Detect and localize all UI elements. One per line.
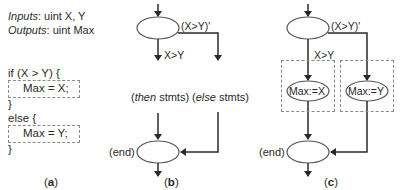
- outputs-declaration: Outputs: uint Max: [8, 24, 94, 36]
- true-branch-label: X>Y: [314, 49, 334, 61]
- caption-b: (b): [164, 176, 179, 188]
- else-stmts-placeholder: (else stmts): [192, 91, 249, 103]
- false-branch-label: (X>Y)': [181, 20, 210, 32]
- then-close-brace: }: [8, 98, 12, 111]
- decision-node: [137, 17, 179, 39]
- end-label: (end): [109, 146, 135, 158]
- decision-node: [287, 17, 329, 39]
- else-close-brace: }: [8, 143, 12, 156]
- end-label: (end): [259, 146, 285, 158]
- caption-c: (c): [324, 176, 338, 188]
- else-to-end-arrow: [181, 112, 218, 152]
- end-node: [287, 141, 329, 163]
- inputs-value: : uint X, Y: [38, 10, 86, 22]
- outputs-value: : uint Max: [47, 24, 95, 36]
- end-node: [137, 141, 179, 163]
- outputs-label: Outputs: [8, 24, 47, 36]
- then-stmts-placeholder: (then stmts): [131, 91, 189, 103]
- caption-a: (a): [44, 176, 58, 188]
- inputs-declaration: Inputs: uint X, Y: [8, 10, 85, 22]
- then-node-label: Max:=X: [289, 85, 325, 97]
- then-stmt: Max = X;: [23, 82, 69, 95]
- inputs-label: Inputs: [8, 10, 38, 22]
- else-node-label: Max:=Y: [348, 85, 384, 97]
- if-line: if (X > Y) {: [8, 67, 60, 80]
- false-branch-label: (X>Y)': [331, 20, 360, 32]
- else-stmt: Max = Y;: [23, 127, 68, 140]
- else-line: else {: [8, 112, 36, 125]
- true-branch-label: X>Y: [164, 49, 184, 61]
